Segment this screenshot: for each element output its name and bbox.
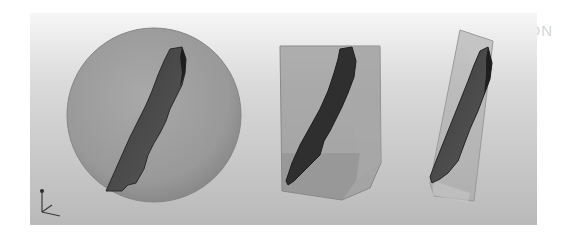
sphere-bounding-volume bbox=[67, 28, 241, 202]
aabb-bounding-volume bbox=[280, 46, 381, 200]
xyz-axes-icon bbox=[40, 189, 60, 216]
obb-bounding-volume bbox=[430, 30, 493, 203]
render-viewport bbox=[30, 13, 537, 225]
